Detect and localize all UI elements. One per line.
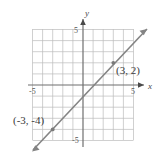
y-axis	[80, 19, 86, 147]
annotation-point-3-2: (3, 2)	[116, 64, 140, 77]
x-axis	[28, 82, 144, 88]
graph-svg: y x -5 5 5 -5 (3, 2) (-3, -4)	[0, 0, 159, 156]
point-marker-3-2	[111, 61, 115, 65]
point-marker-neg3-neg4	[51, 127, 55, 131]
x-axis-label: x	[147, 81, 152, 91]
y-tick-label-negative-5: -5	[72, 136, 79, 145]
plotted-line	[32, 29, 147, 152]
y-axis-label: y	[84, 8, 89, 18]
x-tick-label-positive-5: 5	[131, 87, 135, 96]
x-tick-label-negative-5: -5	[29, 87, 36, 96]
y-tick-label-positive-5: 5	[74, 26, 78, 35]
annotation-point-neg3-neg4: (-3, -4)	[13, 114, 44, 127]
coordinate-plane-figure: )	[0, 0, 159, 156]
